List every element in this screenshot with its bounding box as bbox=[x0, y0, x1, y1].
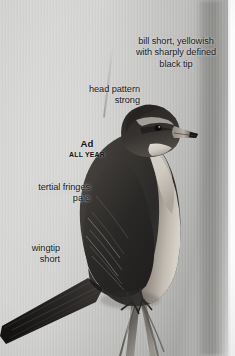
season-label: ALL YEAR bbox=[57, 150, 117, 159]
age-label: Ad bbox=[57, 138, 117, 149]
annotation-bill: bill short, yellowish with sharply defin… bbox=[121, 36, 231, 70]
field-guide-plate: bill short, yellowish with sharply defin… bbox=[0, 0, 235, 356]
bird-eye bbox=[155, 125, 162, 131]
annotation-tertial-fringes: tertial fringes pale bbox=[2, 182, 90, 205]
age-season-label: Ad ALL YEAR bbox=[57, 138, 117, 159]
annotation-wingtip: wingtip short bbox=[2, 243, 60, 266]
bird-tail bbox=[0, 278, 103, 344]
bird-head bbox=[121, 104, 180, 157]
annotation-head-pattern: head pattern strong bbox=[56, 84, 140, 107]
bird-bill bbox=[172, 126, 198, 138]
